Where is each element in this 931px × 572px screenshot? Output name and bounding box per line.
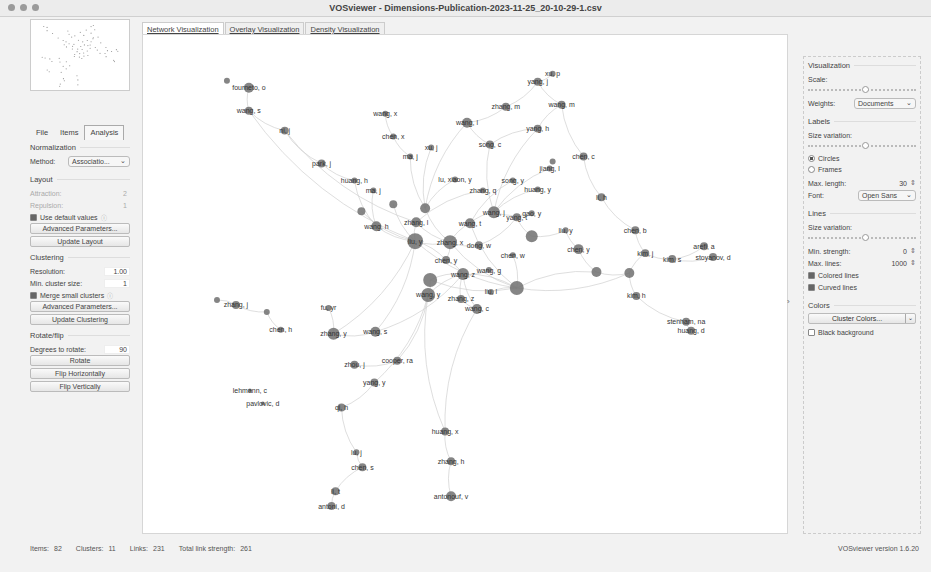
colored-lines-checkbox[interactable]: Colored lines bbox=[808, 269, 916, 281]
rotate-button[interactable]: Rotate bbox=[30, 355, 130, 366]
network-node[interactable]: huang, x bbox=[432, 427, 459, 435]
network-node[interactable]: ni, j bbox=[279, 127, 290, 135]
network-node[interactable] bbox=[526, 230, 538, 242]
node-label[interactable]: zhang, j bbox=[224, 301, 249, 309]
network-node[interactable]: zhang, l bbox=[404, 217, 429, 227]
node-label[interactable]: xu, j bbox=[425, 144, 438, 152]
network-node[interactable]: chen, h bbox=[269, 326, 292, 333]
lines-size-variation-slider[interactable] bbox=[808, 235, 916, 241]
node-label[interactable]: wang, s bbox=[236, 107, 262, 115]
use-default-values-checkbox[interactable]: Use default values ⓘ bbox=[30, 211, 130, 223]
network-node[interactable]: qi, h bbox=[335, 404, 348, 412]
network-node[interactable] bbox=[224, 78, 230, 84]
network-node[interactable]: zhou, j bbox=[344, 361, 365, 369]
node-label[interactable]: fourneto, o bbox=[232, 84, 265, 91]
node-circle[interactable] bbox=[224, 78, 230, 84]
node-label[interactable]: chen, h bbox=[269, 326, 292, 333]
network-node[interactable]: park, j bbox=[312, 160, 331, 168]
network-node[interactable]: fourneto, o bbox=[232, 83, 265, 93]
node-label[interactable]: wang, h bbox=[363, 223, 389, 231]
node-label[interactable]: kim, j bbox=[637, 250, 654, 258]
network-node[interactable]: kim, h bbox=[627, 292, 646, 300]
node-label[interactable]: yang, j bbox=[527, 78, 548, 86]
network-node[interactable]: ma, j bbox=[366, 187, 382, 195]
network-node[interactable] bbox=[264, 309, 270, 315]
node-label[interactable]: yang, t bbox=[506, 214, 527, 222]
node-label[interactable]: lu, xiaon, y bbox=[438, 176, 472, 184]
network-node[interactable]: wang, g bbox=[476, 267, 502, 275]
network-node[interactable]: cooper, ra bbox=[382, 357, 413, 365]
node-label[interactable]: huang, y bbox=[524, 186, 551, 194]
network-node[interactable]: li, h bbox=[596, 193, 607, 201]
merge-small-clusters-checkbox[interactable]: Merge small clusters ⓘ bbox=[30, 289, 130, 301]
node-label[interactable]: yang, y bbox=[363, 379, 386, 387]
node-label[interactable]: wang, g bbox=[476, 267, 502, 275]
node-label[interactable]: liu, l bbox=[485, 288, 498, 295]
node-label[interactable]: antoni, d bbox=[318, 503, 345, 510]
overview-minimap[interactable] bbox=[30, 19, 130, 91]
update-clustering-button[interactable]: Update Clustering bbox=[30, 314, 130, 325]
frames-radio[interactable]: Frames bbox=[808, 164, 916, 175]
network-node[interactable] bbox=[510, 281, 524, 295]
layout-advanced-parameters-button[interactable]: Advanced Parameters... bbox=[30, 223, 130, 234]
max-length-spinner[interactable]: 30 ⇕ bbox=[899, 179, 916, 187]
node-label[interactable]: antonouf, v bbox=[434, 493, 469, 500]
node-label[interactable]: chen, x bbox=[382, 133, 405, 140]
node-label[interactable]: zhang, h bbox=[438, 458, 465, 466]
repulsion-input[interactable]: 1 bbox=[104, 201, 130, 210]
network-node[interactable]: xu, p bbox=[545, 70, 560, 78]
node-label[interactable]: park, j bbox=[312, 160, 331, 168]
network-node[interactable]: wang, s bbox=[362, 327, 388, 337]
node-label[interactable]: lu, j bbox=[351, 449, 362, 457]
network-node[interactable]: zhang, h bbox=[438, 457, 465, 465]
node-label[interactable]: li, t bbox=[331, 488, 340, 495]
node-label[interactable]: wang, j bbox=[482, 209, 506, 217]
node-label[interactable]: zhang, z bbox=[448, 295, 475, 303]
lines-slider-thumb[interactable] bbox=[862, 234, 869, 241]
scale-slider-thumb[interactable] bbox=[862, 86, 869, 93]
node-label[interactable]: song, y bbox=[502, 177, 525, 185]
node-label[interactable]: dong, w bbox=[467, 242, 492, 250]
method-select[interactable]: Associatio... ⌄ bbox=[68, 156, 130, 167]
network-node[interactable]: wang, x bbox=[372, 110, 398, 118]
network-node[interactable]: zhang, q bbox=[470, 187, 497, 195]
network-node[interactable]: kim, j bbox=[637, 249, 654, 257]
attraction-input[interactable]: 2 bbox=[104, 189, 130, 198]
min-strength-spinner[interactable]: 0 ⇕ bbox=[903, 247, 916, 255]
collapse-panel-arrow-icon[interactable]: › bbox=[787, 297, 790, 306]
network-node[interactable]: chen, y bbox=[435, 256, 458, 264]
network-node[interactable]: ma, j bbox=[403, 153, 419, 161]
spinner-arrows-icon[interactable]: ⇕ bbox=[910, 259, 916, 267]
network-node[interactable]: chen, c bbox=[572, 153, 595, 161]
network-node[interactable]: wang, z bbox=[450, 268, 476, 280]
node-label[interactable]: wang, y bbox=[415, 291, 441, 299]
node-label[interactable]: wang, z bbox=[450, 271, 476, 279]
network-node[interactable]: song, y bbox=[502, 177, 525, 185]
node-circle[interactable] bbox=[264, 309, 270, 315]
network-node[interactable]: zhang, y bbox=[320, 328, 347, 340]
node-label[interactable]: ni, j bbox=[279, 127, 290, 135]
network-node[interactable]: wang, l bbox=[455, 118, 479, 128]
network-node[interactable]: antoni, d bbox=[318, 502, 345, 510]
resolution-input[interactable]: 1.00 bbox=[104, 267, 130, 276]
circles-radio[interactable]: Circles bbox=[808, 153, 916, 164]
network-node[interactable]: lehmann, c bbox=[233, 387, 268, 394]
node-label[interactable]: huang, x bbox=[432, 428, 459, 436]
node-label[interactable]: wang, x bbox=[372, 110, 398, 118]
node-label[interactable]: xu, p bbox=[545, 70, 560, 78]
max-lines-spinner[interactable]: 1000 ⇕ bbox=[891, 259, 916, 267]
node-label[interactable]: kim, s bbox=[663, 256, 682, 263]
network-node[interactable]: chen, x bbox=[382, 133, 405, 140]
network-node[interactable]: wang, h bbox=[363, 221, 389, 231]
node-circle[interactable] bbox=[526, 230, 538, 242]
node-label[interactable]: song, c bbox=[479, 141, 502, 149]
network-node[interactable]: chen, w bbox=[501, 252, 526, 259]
network-node[interactable]: liu, y bbox=[407, 233, 423, 249]
network-node[interactable]: chen, s bbox=[351, 463, 374, 471]
node-label[interactable]: pavlovic, d bbox=[246, 400, 279, 408]
network-node[interactable]: wang, t bbox=[458, 218, 482, 228]
spinner-arrows-icon[interactable]: ⇕ bbox=[910, 247, 916, 255]
node-label[interactable]: lehmann, c bbox=[233, 387, 268, 394]
node-label[interactable]: chen, w bbox=[501, 252, 526, 259]
node-label[interactable]: zhang, q bbox=[470, 187, 497, 195]
